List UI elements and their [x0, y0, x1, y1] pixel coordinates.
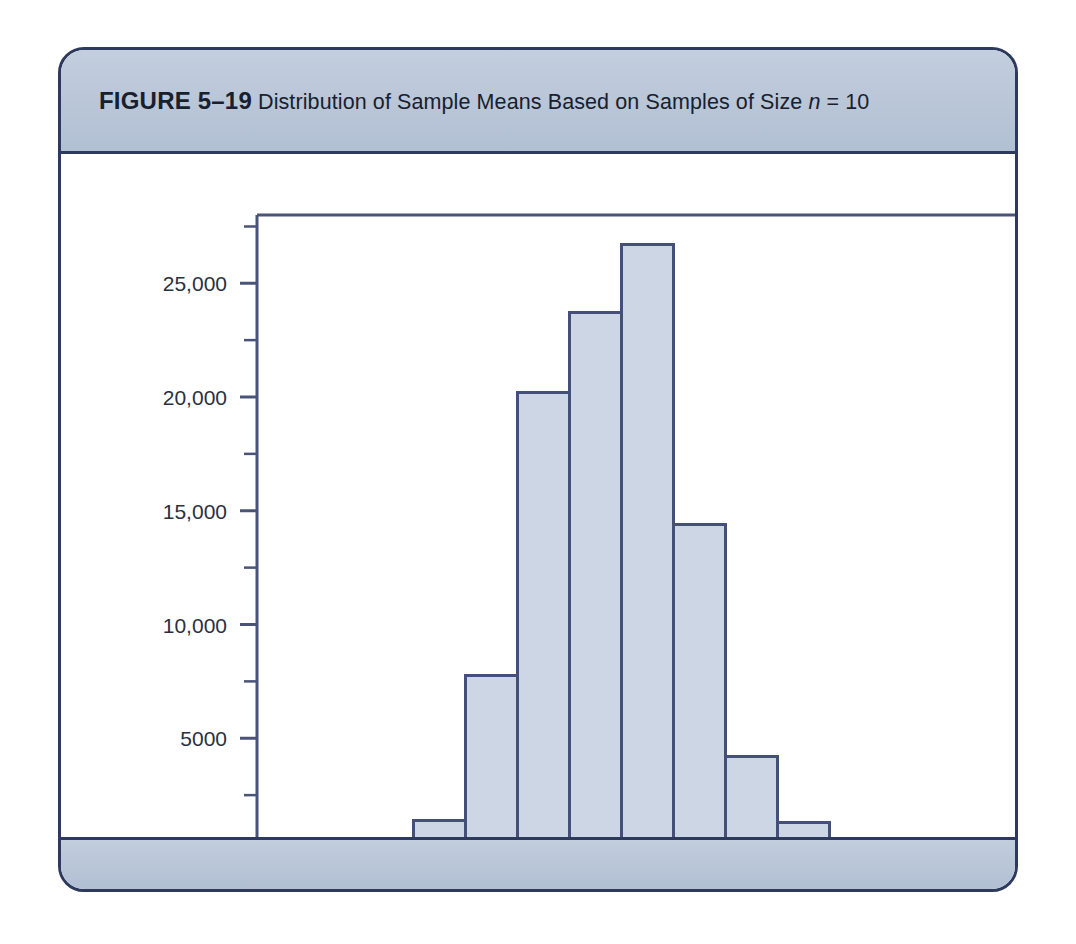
histogram-bar	[569, 313, 621, 843]
y-tick-label: 10,000	[163, 614, 227, 637]
screenshot-root: FIGURE 5–19 Distribution of Sample Means…	[0, 0, 1076, 944]
plot-area: 0500010,00015,00020,00025,0003.04.05.06.…	[61, 154, 1015, 837]
figure-caption-variable: n	[808, 90, 820, 114]
y-tick-label: 20,000	[163, 386, 227, 409]
figure-caption: FIGURE 5–19 Distribution of Sample Means…	[99, 87, 869, 115]
histogram-chart: 0500010,00015,00020,00025,0003.04.05.06.…	[61, 154, 1015, 843]
y-tick-label: 15,000	[163, 500, 227, 523]
figure-card: FIGURE 5–19 Distribution of Sample Means…	[58, 47, 1018, 892]
histogram-bar	[725, 756, 777, 843]
figure-footer-band	[61, 837, 1015, 889]
histogram-bar	[621, 245, 673, 843]
figure-caption-tail: = 10	[827, 90, 870, 114]
y-tick-label: 25,000	[163, 272, 227, 295]
figure-caption-main: Distribution of Sample Means Based on Sa…	[258, 90, 802, 114]
figure-number: FIGURE 5–19	[99, 87, 252, 114]
y-tick-label: 5000	[180, 727, 227, 750]
histogram-bar	[673, 524, 725, 843]
histogram-bar	[517, 392, 569, 843]
histogram-bar	[465, 676, 517, 843]
figure-caption-band: FIGURE 5–19 Distribution of Sample Means…	[61, 50, 1015, 154]
